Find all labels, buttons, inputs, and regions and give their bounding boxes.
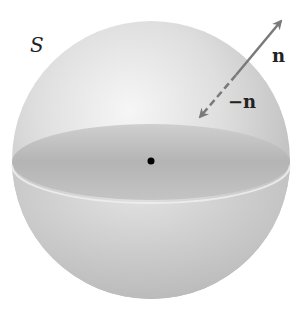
negative-normal-label: −n — [228, 91, 256, 112]
sphere-diagram: S n −n — [0, 0, 297, 314]
center-point — [148, 158, 155, 165]
normal-label: n — [272, 45, 285, 66]
surface-label: S — [30, 33, 44, 57]
